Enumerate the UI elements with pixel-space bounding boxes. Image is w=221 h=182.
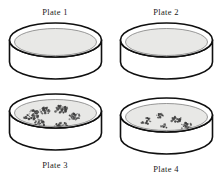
petri-dish-4 — [116, 95, 217, 163]
plate-cell-3: Plate 3 — [0, 88, 110, 179]
agar-surface — [15, 29, 97, 56]
petri-dish-3 — [5, 91, 106, 159]
agar-surface — [126, 104, 208, 131]
plate-label-1: Plate 1 — [0, 7, 110, 17]
petri-dish-graphic — [5, 91, 106, 159]
petri-plate-figure: Plate 1 Plate 2 Plate 3 Plate 4 — [0, 0, 221, 182]
plate-cell-1: Plate 1 — [0, 0, 110, 91]
petri-dish-1 — [5, 20, 106, 88]
agar-surface — [15, 100, 97, 127]
petri-dish-graphic — [116, 95, 217, 163]
plate-cell-2: Plate 2 — [111, 0, 221, 91]
plate-label-3: Plate 3 — [0, 160, 110, 170]
agar-surface — [126, 29, 208, 56]
petri-dish-graphic — [5, 20, 106, 88]
plate-cell-4: Plate 4 — [111, 88, 221, 179]
plate-label-2: Plate 2 — [111, 7, 221, 17]
petri-dish-2 — [116, 20, 217, 88]
petri-dish-graphic — [116, 20, 217, 88]
plate-label-4: Plate 4 — [111, 164, 221, 174]
